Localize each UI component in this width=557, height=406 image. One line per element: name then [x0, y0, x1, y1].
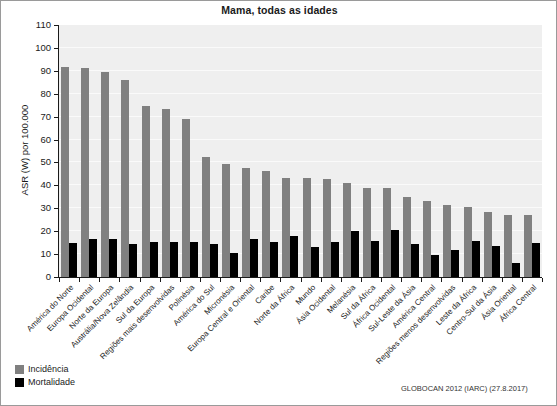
bar-group[interactable] [343, 25, 359, 277]
bar-incidencia[interactable] [443, 205, 451, 277]
bar-incidencia[interactable] [423, 201, 431, 277]
bar-incidencia[interactable] [81, 68, 89, 277]
y-tick-label: 80 [1, 88, 51, 99]
bar-incidencia[interactable] [242, 168, 250, 278]
bar-mortalidade[interactable] [472, 241, 480, 277]
bar-incidencia[interactable] [343, 183, 351, 277]
bar-incidencia[interactable] [403, 197, 411, 277]
bar-group[interactable] [81, 25, 97, 277]
bar-group[interactable] [484, 25, 500, 277]
bar-mortalidade[interactable] [109, 239, 117, 277]
y-tick-mark [54, 231, 58, 232]
bar-group[interactable] [443, 25, 459, 277]
bar-incidencia[interactable] [222, 164, 230, 277]
bar-group[interactable] [403, 25, 419, 277]
bar-group[interactable] [182, 25, 198, 277]
bar-incidencia[interactable] [202, 157, 210, 277]
bar-mortalidade[interactable] [492, 246, 500, 277]
bar-mortalidade[interactable] [431, 255, 439, 277]
bar-incidencia[interactable] [484, 212, 492, 277]
bar-mortalidade[interactable] [451, 250, 459, 277]
y-tick-mark [54, 117, 58, 118]
bar-mortalidade[interactable] [371, 241, 379, 277]
bar-mortalidade[interactable] [250, 239, 258, 277]
bar-group[interactable] [101, 25, 117, 277]
bar-incidencia[interactable] [383, 188, 391, 277]
y-tick-mark [54, 277, 58, 278]
bar-mortalidade[interactable] [170, 242, 178, 277]
bar-group[interactable] [282, 25, 298, 277]
bar-mortalidade[interactable] [150, 242, 158, 277]
y-axis-label: ASR (W) por 100.000 [19, 85, 30, 215]
plot-area [59, 25, 542, 277]
bar-incidencia[interactable] [524, 215, 532, 277]
bar-incidencia[interactable] [323, 179, 331, 277]
bar-group[interactable] [303, 25, 319, 277]
bar-mortalidade[interactable] [230, 253, 238, 277]
x-tick-mark [280, 278, 281, 282]
bar-group[interactable] [423, 25, 439, 277]
x-tick-mark [301, 278, 302, 282]
bar-incidencia[interactable] [101, 72, 109, 277]
bar-group[interactable] [242, 25, 258, 277]
bar-mortalidade[interactable] [69, 243, 77, 277]
bar-mortalidade[interactable] [210, 244, 218, 277]
x-tick-mark [502, 278, 503, 282]
y-tick-label: 30 [1, 202, 51, 213]
bar-group[interactable] [464, 25, 480, 277]
bar-incidencia[interactable] [61, 67, 69, 277]
bar-group[interactable] [222, 25, 238, 277]
bar-group[interactable] [202, 25, 218, 277]
bar-incidencia[interactable] [363, 188, 371, 277]
bar-group[interactable] [363, 25, 379, 277]
bar-mortalidade[interactable] [331, 242, 339, 277]
bar-incidencia[interactable] [303, 178, 311, 277]
bar-mortalidade[interactable] [411, 244, 419, 277]
x-tick-mark [401, 278, 402, 282]
bar-mortalidade[interactable] [512, 263, 520, 277]
x-tick-mark [79, 278, 80, 282]
y-tick-label: 0 [1, 271, 51, 282]
x-tick-mark [482, 278, 483, 282]
bar-incidencia[interactable] [182, 119, 190, 277]
bar-group[interactable] [142, 25, 158, 277]
x-tick-mark [542, 278, 543, 282]
chart-legend: IncidênciaMortalidade [15, 363, 75, 389]
bar-incidencia[interactable] [121, 80, 129, 277]
bar-mortalidade[interactable] [290, 236, 298, 277]
x-tick-mark [260, 278, 261, 282]
bar-group[interactable] [61, 25, 77, 277]
x-tick-mark [381, 278, 382, 282]
y-tick-label: 90 [1, 65, 51, 76]
bar-incidencia[interactable] [142, 106, 150, 277]
legend-item-mort[interactable]: Mortalidade [15, 376, 75, 388]
bar-incidencia[interactable] [504, 215, 512, 277]
bar-incidencia[interactable] [282, 178, 290, 277]
bar-group[interactable] [323, 25, 339, 277]
bar-mortalidade[interactable] [129, 244, 137, 277]
y-tick-mark [54, 254, 58, 255]
bar-mortalidade[interactable] [270, 242, 278, 277]
x-tick-mark [240, 278, 241, 282]
y-axis-spine [58, 25, 59, 278]
bar-group[interactable] [504, 25, 520, 277]
bar-mortalidade[interactable] [351, 231, 359, 277]
bar-group[interactable] [383, 25, 399, 277]
bar-group[interactable] [121, 25, 137, 277]
bar-incidencia[interactable] [262, 171, 270, 277]
bar-group[interactable] [524, 25, 540, 277]
bar-mortalidade[interactable] [391, 230, 399, 277]
page-title: Mama, todas as idades [1, 4, 557, 16]
bar-group[interactable] [162, 25, 178, 277]
bar-group[interactable] [262, 25, 278, 277]
y-tick-mark [54, 208, 58, 209]
bar-incidencia[interactable] [464, 207, 472, 277]
x-tick-mark [361, 278, 362, 282]
bar-mortalidade[interactable] [532, 243, 540, 277]
bar-mortalidade[interactable] [311, 247, 319, 277]
legend-item-inc[interactable]: Incidência [15, 363, 75, 375]
bar-incidencia[interactable] [162, 109, 170, 277]
bar-mortalidade[interactable] [190, 242, 198, 278]
y-tick-mark [54, 185, 58, 186]
bar-mortalidade[interactable] [89, 239, 97, 277]
